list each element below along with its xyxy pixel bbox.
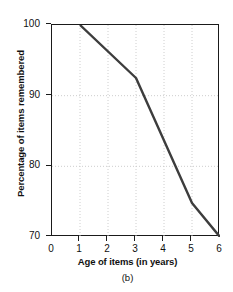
x-tick-mark — [106, 236, 107, 241]
plot-area — [51, 24, 219, 236]
x-axis-title: Age of items (in years) — [30, 256, 225, 267]
x-tick-mark — [78, 236, 79, 241]
y-tick-mark — [46, 235, 51, 236]
y-tick-label: 70 — [0, 231, 40, 241]
x-tick-mark — [190, 236, 191, 241]
x-tick-label: 0 — [41, 244, 61, 254]
figure-panel-b: Percentage of items remembered 708090100… — [0, 0, 233, 292]
y-tick-label: 100 — [0, 19, 40, 29]
data-line — [80, 25, 220, 237]
y-tick-mark — [46, 165, 51, 166]
x-tick-label: 1 — [69, 244, 89, 254]
y-tick-label: 80 — [0, 160, 40, 170]
data-series-layer — [80, 25, 220, 237]
x-tick-label: 6 — [209, 244, 229, 254]
y-tick-label: 90 — [0, 90, 40, 100]
y-tick-mark — [46, 94, 51, 95]
y-tick-mark — [46, 23, 51, 24]
x-tick-label: 5 — [181, 244, 201, 254]
x-tick-mark — [162, 236, 163, 241]
chart-canvas — [52, 25, 220, 237]
x-tick-mark — [134, 236, 135, 241]
x-tick-label: 4 — [153, 244, 173, 254]
panel-caption: (b) — [30, 272, 225, 283]
x-tick-label: 2 — [97, 244, 117, 254]
x-tick-label: 3 — [125, 244, 145, 254]
y-axis-title: Percentage of items remembered — [15, 29, 26, 219]
